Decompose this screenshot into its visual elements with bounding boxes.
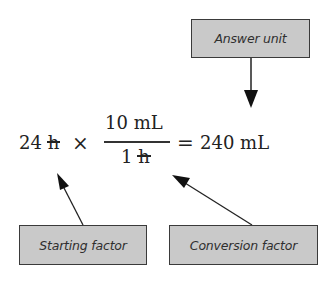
starting-factor-label: Starting factor	[19, 225, 147, 265]
fraction-bar	[104, 141, 170, 143]
conversion-factor-text: Conversion factor	[190, 238, 297, 253]
fraction-numerator: 10 mL	[105, 112, 163, 133]
starting-factor-text: Starting factor	[39, 238, 126, 253]
result-unit: mL	[240, 132, 269, 153]
numerator-unit: mL	[134, 112, 163, 133]
conversion-factor-arrow	[172, 175, 252, 225]
fraction-denominator: 1 h	[121, 146, 150, 167]
starting-quantity: 24 h	[19, 132, 59, 153]
numerator-value: 10	[105, 112, 128, 133]
answer-unit-arrow	[244, 58, 258, 108]
denominator-unit-cancelled: h	[138, 146, 150, 167]
times-symbol: ×	[72, 131, 89, 155]
conversion-factor-label: Conversion factor	[169, 225, 318, 265]
result-quantity: 240 mL	[200, 132, 269, 153]
starting-factor-arrow	[57, 173, 83, 225]
result-value: 240	[200, 132, 234, 153]
answer-unit-text: Answer unit	[214, 31, 286, 46]
starting-unit-cancelled: h	[48, 132, 60, 153]
denominator-value: 1	[121, 146, 132, 167]
answer-unit-label: Answer unit	[191, 19, 310, 58]
equals-symbol: =	[177, 131, 194, 155]
starting-value: 24	[19, 132, 42, 153]
